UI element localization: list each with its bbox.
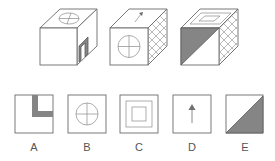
option-e[interactable]: E: [226, 95, 263, 153]
cube-3: [181, 9, 238, 65]
option-e-label: E: [241, 141, 248, 153]
cube-2: [110, 9, 167, 65]
option-c-label: C: [135, 141, 143, 153]
option-a[interactable]: A: [15, 95, 53, 153]
cube-1: [40, 9, 97, 65]
option-d-label: D: [188, 141, 196, 153]
cube-1-front-face: [40, 28, 77, 65]
cube-puzzle-diagram: A B C D E: [0, 0, 275, 161]
circle-with-cross-icon: [118, 36, 140, 58]
option-d[interactable]: D: [173, 95, 211, 153]
circle-with-cross-icon: [76, 103, 98, 125]
option-c[interactable]: C: [120, 95, 158, 153]
option-b-label: B: [83, 141, 90, 153]
option-a-label: A: [30, 141, 38, 153]
option-b[interactable]: B: [68, 95, 106, 153]
